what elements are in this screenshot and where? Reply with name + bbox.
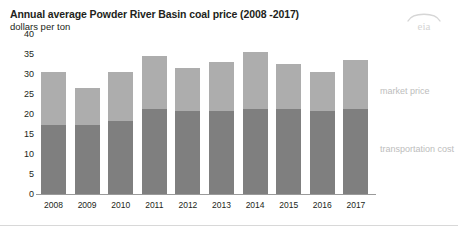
bar-segment-transportation-cost-2008 [41, 125, 66, 195]
eia-logo-icon: eia [404, 10, 444, 34]
bar-group-2016 [310, 72, 335, 195]
chart-container: Annual average Powder River Basin coal p… [0, 0, 458, 226]
bar-segment-market-price-2009 [75, 88, 100, 125]
bar-segment-transportation-cost-2011 [142, 109, 167, 195]
svg-text:eia: eia [418, 20, 431, 32]
y-tick-10: 10 [2, 150, 34, 159]
bar-segment-market-price-2014 [243, 52, 268, 109]
bar-group-2015 [276, 64, 301, 195]
bar-segment-market-price-2008 [41, 72, 66, 125]
bar-segment-transportation-cost-2013 [209, 111, 234, 195]
bar-segment-transportation-cost-2014 [243, 109, 268, 195]
bar-segment-market-price-2017 [343, 60, 368, 109]
x-tick-2015: 2015 [272, 200, 306, 210]
x-tick-2013: 2013 [205, 200, 239, 210]
bar-segment-transportation-cost-2010 [108, 121, 133, 195]
bar-segment-market-price-2012 [175, 68, 200, 111]
bar-segment-market-price-2013 [209, 62, 234, 111]
bar-segment-transportation-cost-2009 [75, 125, 100, 195]
bar-group-2011 [142, 56, 167, 195]
y-axis: 40 35 30 25 20 15 10 5 0 [0, 30, 34, 200]
bar-group-2017 [343, 60, 368, 195]
bar-group-2010 [108, 72, 133, 195]
y-tick-30: 30 [2, 70, 34, 79]
x-tick-2014: 2014 [238, 200, 272, 210]
x-tick-2008: 2008 [37, 200, 71, 210]
bar-group-2014 [243, 52, 268, 196]
x-tick-2017: 2017 [339, 200, 373, 210]
page-title: Annual average Powder River Basin coal p… [10, 8, 299, 20]
x-tick-2016: 2016 [305, 200, 339, 210]
y-tick-15: 15 [2, 130, 34, 139]
bar-group-2009 [75, 88, 100, 195]
bar-segment-transportation-cost-2012 [175, 111, 200, 195]
x-axis-line [36, 194, 376, 195]
legend-item-market-price: market price [380, 86, 458, 97]
x-tick-2012: 2012 [171, 200, 205, 210]
y-tick-5: 5 [2, 170, 34, 179]
x-tick-2010: 2010 [104, 200, 138, 210]
bar-segment-market-price-2016 [310, 72, 335, 111]
bar-group-2013 [209, 62, 234, 195]
bar-group-2012 [175, 68, 200, 195]
plot-area [38, 30, 374, 195]
bar-group-2008 [41, 72, 66, 195]
y-tick-0: 0 [2, 190, 34, 199]
y-tick-40: 40 [2, 30, 34, 39]
bar-segment-market-price-2011 [142, 56, 167, 109]
x-tick-2009: 2009 [70, 200, 104, 210]
y-tick-20: 20 [2, 110, 34, 119]
bar-segment-transportation-cost-2015 [276, 109, 301, 195]
y-tick-35: 35 [2, 50, 34, 59]
bar-segment-market-price-2015 [276, 64, 301, 109]
bar-segment-transportation-cost-2016 [310, 111, 335, 195]
bar-segment-transportation-cost-2017 [343, 109, 368, 195]
x-tick-2011: 2011 [137, 200, 171, 210]
y-tick-25: 25 [2, 90, 34, 99]
legend-item-transportation-cost: transportation cost [380, 144, 458, 155]
bar-segment-market-price-2010 [108, 72, 133, 121]
